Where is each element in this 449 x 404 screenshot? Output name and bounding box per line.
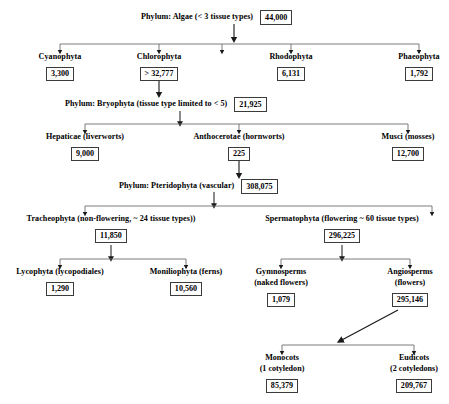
node-eudicots: Eudicots (2 cotyledons) 209,767: [372, 353, 449, 393]
node-cyanophyta: Cyanophyta 3,300: [20, 52, 100, 81]
node-lycophyta-value: 1,290: [46, 282, 74, 297]
node-bryophyta: Phylum: Bryophyta (tissue type limited t…: [65, 97, 267, 112]
node-gymnosperms-label-line1: Gymnosperms: [241, 267, 321, 278]
node-pteridophyta: Phylum: Pteridophyta (vascular) 308,075: [119, 179, 278, 194]
node-pteridophyta-label: Phylum: Pteridophyta (vascular): [119, 181, 234, 191]
node-tracheophyta-label: Tracheophyta (non-flowering, ~ 24 tissue…: [6, 214, 216, 224]
node-tracheophyta-value: 11,850: [95, 229, 127, 244]
node-rhodophyta-label: Rhodophyta: [251, 52, 331, 62]
node-hepaticae-value: 9,000: [71, 147, 99, 162]
node-gymnosperms-value: 1,079: [267, 293, 295, 308]
node-anthocerotae-label: Anthocerotae (hornworts): [169, 132, 309, 142]
node-rhodophyta-value: 6,131: [277, 67, 305, 82]
node-chlorophyta-label: Chlorophyta: [119, 52, 199, 62]
node-lycophyta-label: Lycophyta (lycopodiales): [6, 267, 114, 277]
node-eudicots-label-line1: Eudicots: [372, 353, 449, 364]
node-cyanophyta-label: Cyanophyta: [20, 52, 100, 62]
node-moniliophyta-label: Moniliophyta (ferns): [136, 267, 236, 277]
node-angiosperms: Angiosperms (flowers) 295,146: [373, 267, 447, 307]
node-eudicots-value: 209,767: [396, 379, 432, 394]
node-spermatophyta-label: Spermatophyta (flowering ~ 60 tissue typ…: [244, 214, 440, 224]
node-moniliophyta-value: 10,560: [170, 282, 202, 297]
node-phaeophyta-label: Phaeophyta: [379, 52, 449, 62]
node-angiosperms-label-line1: Angiosperms: [373, 267, 447, 278]
node-gymnosperms: Gymnosperms (naked flowers) 1,079: [241, 267, 321, 307]
node-monocots-value: 85,379: [266, 379, 298, 394]
node-chlorophyta-value: > 32,777: [140, 67, 179, 82]
node-angiosperms-value: 295,146: [392, 293, 428, 308]
node-chlorophyta: Chlorophyta > 32,777: [119, 52, 199, 81]
node-musci: Musci (mosses) 12,700: [353, 132, 449, 161]
node-hepaticae-label: Hepaticae (liverworts): [25, 132, 145, 142]
node-eudicots-label-line2: (2 cotyledons): [372, 364, 449, 375]
node-gymnosperms-label-line2: (naked flowers): [241, 278, 321, 289]
node-lycophyta: Lycophyta (lycopodiales) 1,290: [6, 267, 114, 296]
node-monocots: Monocots (1 cotyledon) 85,379: [242, 353, 322, 393]
node-moniliophyta: Moniliophyta (ferns) 10,560: [136, 267, 236, 296]
node-bryophyta-label: Phylum: Bryophyta (tissue type limited t…: [65, 99, 227, 109]
node-hepaticae: Hepaticae (liverworts) 9,000: [25, 132, 145, 161]
node-rhodophyta: Rhodophyta 6,131: [251, 52, 331, 81]
node-algae-label: Phylum: Algae (< 3 tissue types): [141, 12, 253, 22]
node-tracheophyta: Tracheophyta (non-flowering, ~ 24 tissue…: [6, 214, 216, 243]
node-musci-label: Musci (mosses): [353, 132, 449, 142]
node-pteridophyta-value: 308,075: [241, 179, 277, 194]
node-spermatophyta: Spermatophyta (flowering ~ 60 tissue typ…: [244, 214, 440, 243]
node-monocots-label-line2: (1 cotyledon): [242, 364, 322, 375]
node-phaeophyta-value: 1,792: [405, 67, 433, 82]
node-algae: Phylum: Algae (< 3 tissue types) 44,000: [141, 10, 292, 25]
node-algae-value: 44,000: [260, 10, 292, 25]
node-bryophyta-value: 21,925: [234, 97, 266, 112]
phylogeny-diagram: Phylum: Algae (< 3 tissue types) 44,000 …: [0, 0, 449, 404]
node-phaeophyta: Phaeophyta 1,792: [379, 52, 449, 81]
node-musci-value: 12,700: [392, 147, 424, 162]
node-angiosperms-label-line2: (flowers): [373, 278, 447, 289]
node-monocots-label-line1: Monocots: [242, 353, 322, 364]
node-spermatophyta-value: 296,225: [324, 229, 360, 244]
node-anthocerotae: Anthocerotae (hornworts) 225: [169, 132, 309, 161]
node-anthocerotae-value: 225: [228, 147, 250, 162]
node-cyanophyta-value: 3,300: [46, 67, 74, 82]
